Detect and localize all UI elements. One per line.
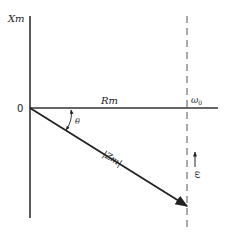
x-axis-label: Rm [100, 95, 118, 106]
omega-label: ω [193, 171, 203, 179]
impedance-magnitude-label: |Zm| [100, 149, 124, 169]
y-axis-label: Xm [7, 13, 25, 24]
omega-zero-label: ω0 [191, 95, 202, 106]
theta-angle-arc [66, 110, 71, 130]
theta-label: θ [75, 117, 80, 126]
origin-label: 0 [17, 103, 23, 114]
impedance-diagram: Xm Rm 0 θ |Zm| ω0 ω [0, 0, 230, 234]
